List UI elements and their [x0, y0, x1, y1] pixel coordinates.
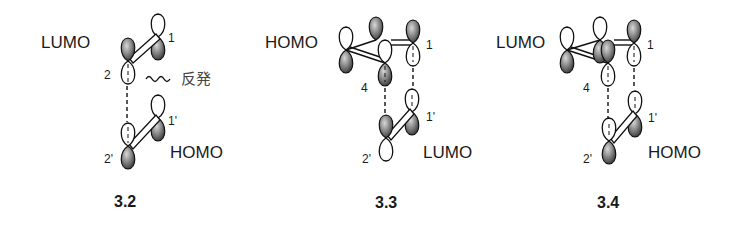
atom-label-1: 1 [168, 31, 175, 45]
orbital-label-upper: LUMO [496, 33, 545, 52]
lower-ethylene-lumo [379, 89, 419, 161]
figure-3-2: 反発 LUMO HOMO 1 2 1' 2' 3.2 [41, 14, 223, 210]
atom-label-1-prime: 1' [168, 114, 177, 128]
atom-label-1: 1 [647, 38, 654, 52]
atom-label-2-prime: 2' [583, 152, 592, 166]
orbital-label-lower: LUMO [423, 143, 472, 162]
atom-label-4: 4 [583, 81, 590, 95]
upper-ethylene-lumo [121, 14, 165, 84]
orbital-interaction-diagram: 反発 LUMO HOMO 1 2 1' 2' 3.2 [0, 0, 746, 231]
figure-3-3: HOMO LUMO 1 4 1' 2' 3.3 [265, 17, 472, 211]
orbital-label-lower: HOMO [648, 143, 701, 162]
atom-label-4: 4 [361, 81, 368, 95]
figure-3-4: LUMO HOMO 1 4 1' 2' 3.4 [496, 17, 701, 211]
upper-diene-homo [339, 17, 420, 86]
atom-label-2-prime: 2' [104, 152, 113, 166]
lower-ethylene-homo [121, 95, 165, 169]
upper-diene-lumo [560, 17, 641, 86]
figure-number: 3.2 [114, 193, 136, 210]
repulsion-annotation: 反発 [181, 70, 211, 88]
atom-label-1-prime: 1' [426, 110, 435, 124]
orbital-label-upper: HOMO [265, 33, 318, 52]
orbital-label-upper: LUMO [41, 33, 90, 52]
atom-label-1: 1 [426, 38, 433, 52]
figure-number: 3.4 [597, 194, 619, 211]
repulsion-wave-icon [146, 77, 170, 82]
lower-ethylene-homo [602, 91, 642, 164]
orbital-label-lower: HOMO [170, 143, 223, 162]
atom-label-1-prime: 1' [648, 111, 657, 125]
atom-label-2: 2 [104, 68, 111, 82]
figure-number: 3.3 [375, 194, 397, 211]
atom-label-2-prime: 2' [362, 152, 371, 166]
